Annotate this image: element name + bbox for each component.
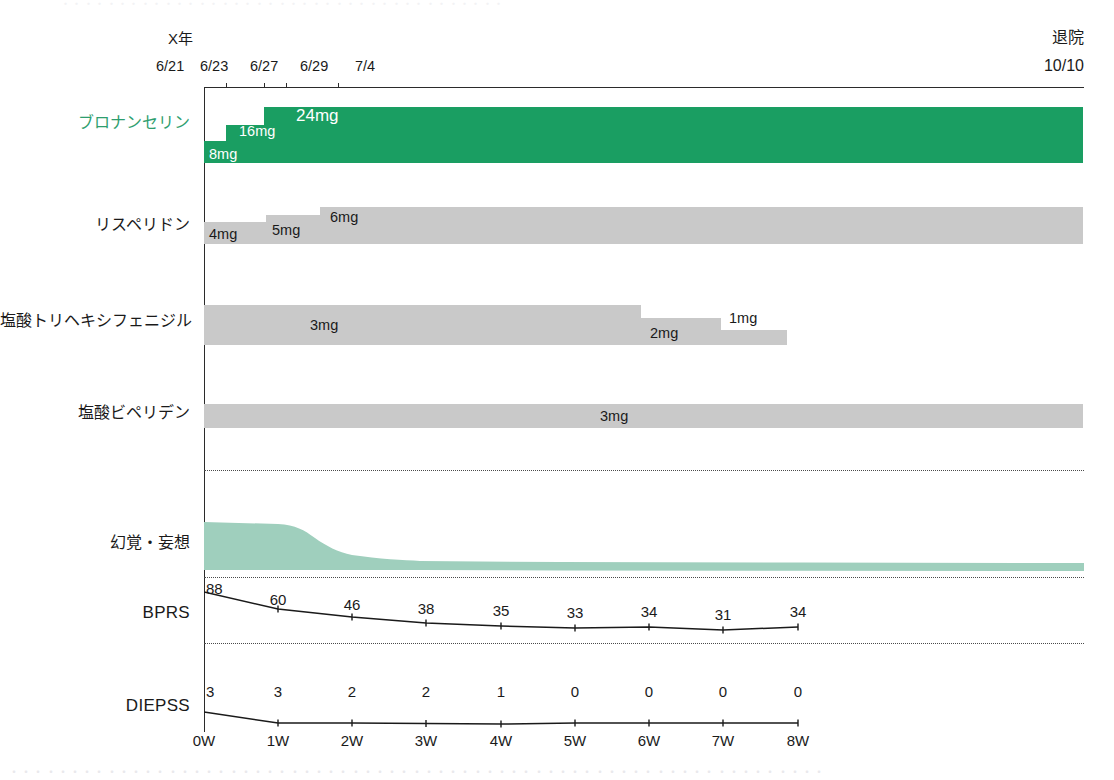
chart-page: ・・・・・・・・・・・・・・・・・・・・・・・・・・・・・・・・・・・・・・・ …	[0, 0, 1114, 780]
diepss-value-4w: 1	[486, 684, 516, 700]
dose-label-risperidone-5mg: 5mg	[272, 222, 300, 238]
diepss-value-5w: 0	[560, 684, 590, 700]
diepss-line-chart	[204, 700, 1084, 736]
bprs-value-1w: 60	[263, 592, 293, 608]
dose-label-blonanserin-24mg: 24mg	[296, 108, 339, 124]
bprs-value-8w: 34	[783, 604, 813, 620]
separator-below-bprs	[204, 643, 1084, 644]
diepss-value-2w: 2	[337, 684, 367, 700]
bprs-value-6w: 34	[634, 604, 664, 620]
cropped-bottom-caption: ・・・・・・・・・・・・・・・・・・・・・・・・・・・・・・・・・・・・・・・・…	[8, 766, 1108, 780]
dose-label-risperidone-6mg: 6mg	[330, 209, 358, 225]
row-label-bprs: BPRS	[0, 604, 190, 622]
diepss-value-6w: 0	[634, 684, 664, 700]
row-label-blonanserin: ブロナンセリン	[0, 114, 190, 132]
bar-blonanserin-24mg	[264, 107, 1083, 163]
dose-label-trihexyphenidyl-3mg: 3mg	[310, 317, 338, 333]
diepss-value-1w: 3	[263, 684, 293, 700]
dose-label-risperidone-4mg: 4mg	[209, 226, 237, 242]
bar-risperidone-6mg	[320, 207, 1083, 244]
date-label-4: 7/4	[355, 58, 375, 74]
discharge-label: 退院	[984, 24, 1084, 48]
dose-label-biperiden-3mg: 3mg	[600, 408, 628, 424]
bar-trihexyphenidyl-3mg	[204, 305, 641, 345]
date-tick-7-4	[338, 83, 339, 88]
x-tick-label-5w: 5W	[560, 733, 590, 749]
date-tick-6-23	[226, 83, 227, 88]
row-label-symptom: 幻覚・妄想	[0, 534, 190, 552]
diepss-value-7w: 0	[708, 684, 738, 700]
row-label-trihexyphenidyl: 塩酸トリヘキシフェニジル	[0, 312, 190, 330]
row-label-biperiden: 塩酸ビペリデン	[0, 404, 190, 422]
bprs-value-5w: 33	[560, 605, 590, 621]
cropped-top-text: ・・・・・・・・・・・・・・・・・・・・・・・・・・・・・・・・・・・・・・・	[60, 0, 800, 9]
date-tick-6-27	[264, 83, 265, 88]
row-label-risperidone: リスペリドン	[0, 216, 190, 234]
row-label-diepss: DIEPSS	[0, 697, 190, 715]
dose-label-trihexyphenidyl-2mg: 2mg	[650, 325, 678, 341]
symptom-band-area	[204, 500, 1084, 578]
x-tick-label-1w: 1W	[263, 733, 293, 749]
bprs-value-0w: 88	[191, 581, 236, 597]
dose-label-trihexyphenidyl-1mg: 1mg	[729, 310, 757, 326]
x-tick-label-3w: 3W	[411, 733, 441, 749]
discharge-date: 10/10	[974, 57, 1084, 75]
dose-label-blonanserin-16mg: 16mg	[239, 123, 275, 139]
bprs-value-3w: 38	[411, 601, 441, 617]
x-tick-label-4w: 4W	[486, 733, 516, 749]
date-tick-6-29	[286, 83, 287, 88]
x-tick-label-8w: 8W	[783, 733, 813, 749]
bprs-value-7w: 31	[708, 607, 738, 623]
x-tick-label-6w: 6W	[634, 733, 664, 749]
x-tick-label-2w: 2W	[337, 733, 367, 749]
diepss-value-0w: 3	[191, 684, 236, 700]
diepss-value-3w: 2	[411, 684, 441, 700]
bar-trihexyphenidyl-1mg	[721, 330, 787, 345]
bar-biperiden-3mg	[204, 404, 1083, 428]
bprs-value-4w: 35	[486, 603, 516, 619]
x-tick-label-0w: 0W	[189, 733, 219, 749]
date-label-1: 6/23	[200, 58, 228, 74]
date-label-0: 6/21	[156, 58, 184, 74]
year-label: X年	[168, 27, 193, 48]
diepss-value-8w: 0	[783, 684, 813, 700]
dose-label-blonanserin-8mg: 8mg	[209, 146, 237, 162]
date-label-3: 6/29	[300, 58, 328, 74]
date-label-2: 6/27	[250, 58, 278, 74]
bprs-value-2w: 46	[337, 597, 367, 613]
separator-above-symptom	[204, 470, 1084, 471]
x-tick-label-7w: 7W	[708, 733, 738, 749]
top-axis-line	[204, 87, 1084, 88]
